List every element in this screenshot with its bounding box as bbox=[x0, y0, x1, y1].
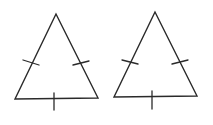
triangle-right bbox=[114, 12, 197, 97]
diagram-canvas bbox=[0, 0, 213, 125]
triangle-left bbox=[15, 14, 98, 99]
triangles-diagram bbox=[0, 0, 213, 125]
triangle-right-group bbox=[114, 12, 197, 109]
triangle-left-group bbox=[15, 14, 98, 110]
